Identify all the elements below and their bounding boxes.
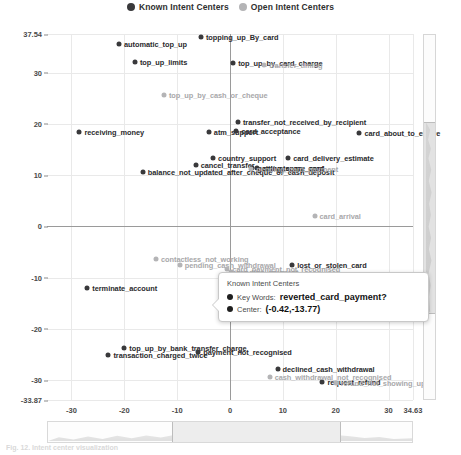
gridline-vertical: [389, 34, 390, 400]
scatter-plot[interactable]: -30-20-10010203034.6337.543020100-10-20-…: [47, 34, 413, 400]
gridline-vertical: [413, 34, 414, 400]
tooltip-keywords-label: Key Words:: [237, 293, 276, 302]
x-axis-tick-label: -10: [172, 406, 183, 415]
y-axis-tick-label: -30: [31, 376, 42, 385]
scatter-point-marker[interactable]: [333, 381, 338, 386]
gridline-vertical: [283, 34, 284, 400]
y-axis-tick-mark: [44, 380, 48, 381]
horizontal-slider-track-fill[interactable]: [172, 422, 341, 442]
scatter-point-marker[interactable]: [231, 61, 236, 66]
x-axis-tick-label: -30: [66, 406, 77, 415]
legend-item-known[interactable]: Known Intent Centers: [127, 2, 229, 12]
scatter-point-label: card_acceptance: [241, 126, 300, 135]
filled-circle-icon: [227, 294, 233, 300]
y-axis-tick-mark: [44, 329, 48, 330]
scatter-point-marker[interactable]: [106, 352, 111, 357]
scatter-point-label: top_up_limits: [140, 58, 187, 67]
tooltip-center-row: Center: (-0.42,-13.77): [227, 304, 420, 314]
x-axis-tick-label: 30: [384, 406, 392, 415]
tooltip-keywords-value: reverted_card_payment?: [280, 292, 387, 302]
scatter-point-label: pending_card_payment: [256, 165, 338, 174]
y-axis-tick-label: -33.87: [21, 396, 42, 405]
scatter-point-marker[interactable]: [154, 257, 159, 262]
scatter-point-label: payment_not_recognised: [203, 347, 291, 356]
tooltip-center-label: Center:: [237, 305, 262, 314]
scatter-point-marker[interactable]: [140, 170, 145, 175]
scatter-point-marker[interactable]: [161, 93, 166, 98]
y-axis-tick-mark: [44, 124, 48, 125]
scatter-point-marker[interactable]: [117, 41, 122, 46]
gridline-horizontal: [47, 400, 413, 401]
scatter-point-marker[interactable]: [77, 129, 82, 134]
filled-circle-icon: [227, 306, 233, 312]
scatter-point-marker[interactable]: [357, 131, 362, 136]
scatter-point-label: card_delivery_estimate: [293, 154, 374, 163]
scatter-point-marker[interactable]: [234, 128, 239, 133]
scatter-point-label: receiving_money: [84, 127, 144, 136]
scatter-point-label: refund_not_showing_up: [341, 379, 426, 388]
x-axis-tick-label: 20: [332, 406, 340, 415]
scatter-point-marker[interactable]: [286, 156, 291, 161]
x-axis-line: [47, 226, 413, 227]
filled-circle-icon: [239, 3, 247, 11]
y-axis-tick-mark: [44, 400, 48, 401]
tooltip-center-value: (-0.42,-13.77): [266, 304, 321, 314]
y-axis-tick-mark: [44, 175, 48, 176]
y-axis-tick-label: -10: [31, 273, 42, 282]
scatter-point-marker[interactable]: [132, 60, 137, 65]
y-axis-tick-mark: [44, 226, 48, 227]
figure-caption: Fig. 12. Intent center visualization: [6, 444, 446, 454]
y-axis-tick-label: -20: [31, 324, 42, 333]
x-axis-tick-label: 10: [279, 406, 287, 415]
y-axis-tick-label: 20: [34, 119, 42, 128]
gridline-vertical: [71, 34, 72, 400]
scatter-point-label: topping_up_By_card: [206, 33, 279, 42]
y-axis-tick-label: 37.54: [23, 30, 42, 39]
legend-item-open[interactable]: Open Intent Centers: [239, 2, 334, 12]
scatter-point-label: top_up_by_cash_or_cheque: [169, 91, 268, 100]
scatter-point-label: terminate_account: [92, 283, 157, 292]
scatter-point-label: transfer_timing: [269, 61, 322, 70]
scatter-point-label: automatic_top_up: [124, 39, 187, 48]
x-axis-tick-label: -20: [119, 406, 130, 415]
scatter-point-marker[interactable]: [85, 285, 90, 290]
point-tooltip: Known Intent Centers Key Words: reverted…: [218, 272, 429, 322]
x-axis-tick-label: 0: [228, 406, 232, 415]
filled-circle-icon: [127, 3, 135, 11]
scatter-point-marker[interactable]: [262, 63, 267, 68]
x-axis-tick-label: 34.63: [404, 406, 423, 415]
chart-legend: Known Intent Centers Open Intent Centers: [0, 2, 461, 12]
scatter-point-marker[interactable]: [122, 346, 127, 351]
scatter-point-label: card_arrival: [320, 211, 361, 220]
scatter-point-marker[interactable]: [267, 374, 272, 379]
scatter-point-marker[interactable]: [177, 263, 182, 268]
scatter-point-marker[interactable]: [275, 366, 280, 371]
y-axis-tick-label: 10: [34, 171, 42, 180]
scatter-point-marker[interactable]: [249, 167, 254, 172]
horizontal-range-slider[interactable]: [47, 421, 413, 443]
y-axis-tick-mark: [44, 278, 48, 279]
legend-label-known: Known Intent Centers: [139, 2, 229, 12]
scatter-point-marker[interactable]: [235, 120, 240, 125]
scatter-point-marker[interactable]: [206, 129, 211, 134]
scatter-point-marker[interactable]: [198, 35, 203, 40]
y-axis-tick-label: 30: [34, 68, 42, 77]
y-axis-tick-mark: [44, 73, 48, 74]
scatter-point-marker[interactable]: [196, 349, 201, 354]
legend-label-open: Open Intent Centers: [251, 2, 334, 12]
scatter-point-marker[interactable]: [312, 213, 317, 218]
y-axis-tick-label: 0: [38, 222, 42, 231]
tooltip-keywords-row: Key Words: reverted_card_payment?: [227, 292, 420, 302]
y-axis-tick-mark: [44, 34, 48, 35]
vertical-range-slider[interactable]: [423, 34, 436, 400]
tooltip-title: Known Intent Centers: [227, 279, 420, 288]
